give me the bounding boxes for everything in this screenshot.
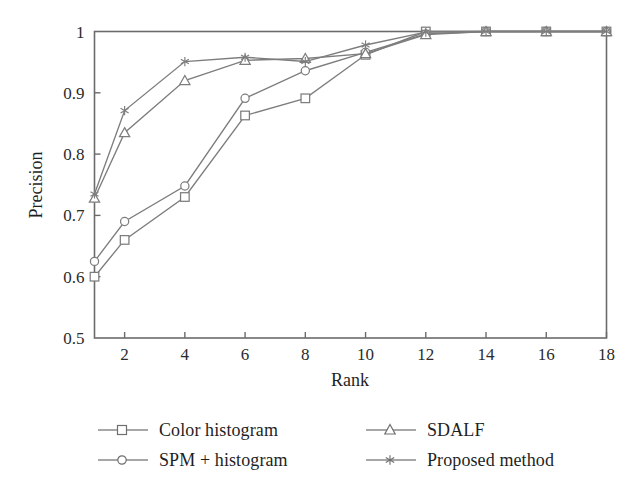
- y-tick-label: 0.8: [63, 145, 84, 164]
- legend-item-proposed-method[interactable]: Proposed method: [364, 450, 566, 471]
- data-point-circle: [90, 257, 98, 265]
- y-tick-label: 0.9: [63, 84, 84, 103]
- circle-marker-icon: [96, 451, 150, 469]
- circle-marker-icon: [181, 182, 189, 190]
- square-marker-icon: [120, 236, 129, 245]
- legend-item-sdalf[interactable]: SDALF: [364, 420, 566, 441]
- series-sdalf: [89, 27, 611, 203]
- x-tick-label: 2: [120, 345, 129, 364]
- square-marker-icon: [96, 421, 150, 439]
- data-point-circle: [181, 182, 189, 190]
- series-spm-histogram: [90, 27, 610, 265]
- series-proposed-method: [91, 27, 611, 199]
- x-tick-label: 8: [301, 345, 310, 364]
- data-point-circle: [301, 67, 309, 75]
- legend-label-proposed-method: Proposed method: [427, 450, 554, 471]
- data-point-circle: [241, 94, 249, 102]
- data-point-star: [121, 106, 129, 115]
- chart-legend: Color histogram SDALF SPM + histogram: [96, 415, 566, 477]
- data-point-square: [181, 193, 190, 202]
- y-tick-label: 0.7: [63, 206, 85, 225]
- circle-marker-icon: [241, 94, 249, 102]
- data-point-circle: [121, 217, 129, 225]
- square-marker-icon: [301, 94, 310, 103]
- x-tick-label: 4: [181, 345, 190, 364]
- square-marker-icon: [241, 111, 250, 120]
- precision-vs-rank-figure: Precision Rank 246810121416180.50.60.70.…: [0, 0, 643, 485]
- series-line: [95, 32, 607, 194]
- series-line: [95, 32, 607, 277]
- legend-item-spm-histogram[interactable]: SPM + histogram: [96, 450, 364, 471]
- plot-frame: [95, 32, 607, 339]
- square-marker-icon: [181, 193, 190, 202]
- legend-item-color-histogram[interactable]: Color histogram: [96, 420, 364, 441]
- legend-label-sdalf: SDALF: [427, 420, 485, 441]
- circle-marker-icon: [301, 67, 309, 75]
- y-axis-title: Precision: [26, 152, 46, 219]
- triangle-marker-icon: [364, 421, 418, 439]
- square-marker-icon: [90, 272, 99, 281]
- series-color-histogram: [90, 27, 611, 281]
- y-tick-label: 0.6: [63, 268, 84, 287]
- data-point-square: [90, 272, 99, 281]
- legend-label-spm-histogram: SPM + histogram: [159, 450, 288, 471]
- x-tick-label: 10: [357, 345, 374, 364]
- data-point-square: [120, 236, 129, 245]
- x-tick-label: 18: [598, 345, 615, 364]
- x-tick-label: 6: [241, 345, 250, 364]
- legend-label-color-histogram: Color histogram: [159, 420, 278, 441]
- precision-rank-line-chart: Precision Rank 246810121416180.50.60.70.…: [0, 0, 643, 485]
- x-tick-label: 12: [417, 345, 434, 364]
- x-tick-label: 14: [478, 345, 496, 364]
- x-axis-title: Rank: [331, 370, 369, 390]
- data-point-square: [241, 111, 250, 120]
- star-marker-icon: [364, 451, 418, 469]
- circle-marker-icon: [90, 257, 98, 265]
- y-tick-label: 1: [76, 23, 85, 42]
- x-tick-label: 16: [538, 345, 555, 364]
- y-tick-label: 0.5: [63, 329, 84, 348]
- star-marker-icon: [121, 106, 129, 115]
- circle-marker-icon: [121, 217, 129, 225]
- data-series-layer: [89, 27, 611, 282]
- data-point-square: [301, 94, 310, 103]
